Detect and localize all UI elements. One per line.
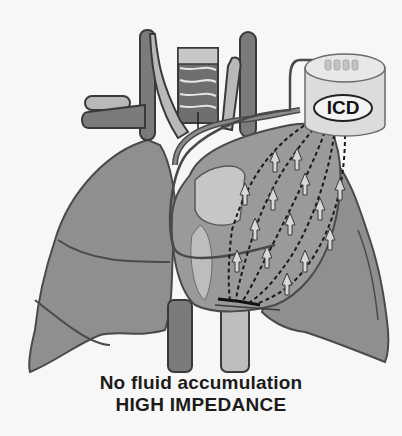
- icd-label: ICD: [314, 94, 372, 122]
- left-great-vessels: [82, 30, 188, 140]
- caption-line-2: HIGH IMPEDANCE: [0, 394, 402, 416]
- inferior-vena-cava: [168, 300, 192, 372]
- caption-line-1: No fluid accumulation: [0, 372, 402, 394]
- left-lung: [29, 140, 175, 372]
- diagram-canvas: ICD No fluid accumulation HIGH IMPEDANCE: [0, 0, 402, 436]
- trachea: [178, 48, 218, 135]
- thorax-illustration: [0, 0, 402, 436]
